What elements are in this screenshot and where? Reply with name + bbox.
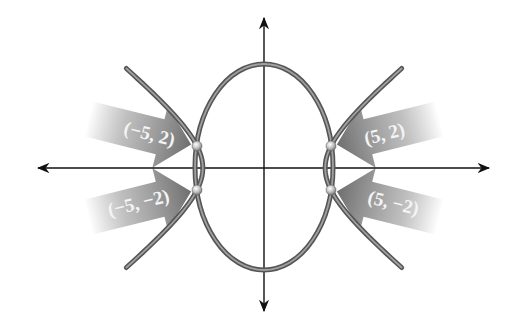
point-p4 (326, 185, 336, 195)
point-p3 (192, 185, 202, 195)
conic-intersection-diagram: (−5, 2) (−5, −2) (5, 2) (5, −2) (0, 0, 508, 325)
point-p1 (192, 141, 202, 151)
point-p2 (326, 141, 336, 151)
